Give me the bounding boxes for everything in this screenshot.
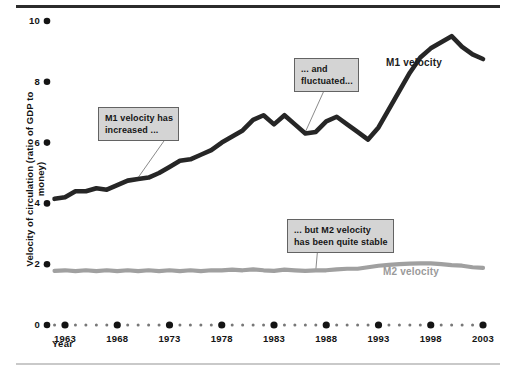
x-tick-dot-major xyxy=(427,321,434,328)
y-tick-label: 6 xyxy=(18,137,40,148)
x-tick-dot-major xyxy=(323,321,330,328)
x-tick-dot-major xyxy=(114,321,121,328)
series-label-m1: M1 velocity xyxy=(386,57,442,68)
y-axis-title: Velocity of circulation (ratio of GDP to… xyxy=(24,74,46,284)
x-tick-label: 1998 xyxy=(411,333,451,344)
x-tick-dot-minor xyxy=(178,324,181,327)
annotation-m1-increased: M1 velocity has increased ... xyxy=(98,107,179,141)
series-label-m2: M2 velocity xyxy=(383,266,439,277)
x-tick-dot-minor xyxy=(74,324,77,327)
x-tick-dot-minor xyxy=(105,324,108,327)
x-tick-dot-minor xyxy=(450,324,453,327)
x-tick-dot-minor xyxy=(147,324,150,327)
x-tick-dot-minor xyxy=(346,324,349,327)
x-axis-tick-dots xyxy=(53,321,487,328)
x-tick-dot-major xyxy=(166,321,173,328)
x-tick-dot-minor xyxy=(199,324,202,327)
y-tick-dot xyxy=(44,18,51,25)
x-tick-dot-minor xyxy=(440,324,443,327)
x-tick-dot-major xyxy=(479,321,486,328)
annotation-m2-stable: ... but M2 velocity has been quite stabl… xyxy=(287,219,394,253)
x-tick-dot-minor xyxy=(304,324,307,327)
x-tick-label: 1973 xyxy=(150,333,190,344)
y-tick-label: 2 xyxy=(18,258,40,269)
x-tick-dot-major xyxy=(218,321,225,328)
x-tick-dot-minor xyxy=(231,324,234,327)
chart-figure: Velocity of circulation (ratio of GDP to… xyxy=(0,0,511,373)
x-tick-dot-major xyxy=(375,321,382,328)
x-tick-dot-minor xyxy=(53,324,56,327)
x-tick-label: 1993 xyxy=(359,333,399,344)
x-tick-dot-minor xyxy=(252,324,255,327)
x-tick-label: 2003 xyxy=(463,333,503,344)
y-tick-label: 10 xyxy=(18,15,40,26)
y-tick-label: 4 xyxy=(18,197,40,208)
x-tick-dot-minor xyxy=(408,324,411,327)
x-tick-dot-minor xyxy=(95,324,98,327)
x-tick-dot-minor xyxy=(293,324,296,327)
x-tick-dot-minor xyxy=(314,324,317,327)
y-tick-label: 0 xyxy=(18,319,40,330)
x-tick-dot-major xyxy=(270,321,277,328)
x-tick-dot-minor xyxy=(387,324,390,327)
x-tick-dot-minor xyxy=(283,324,286,327)
x-tick-label: 1968 xyxy=(97,333,137,344)
x-tick-dot-minor xyxy=(126,324,129,327)
x-tick-dot-minor xyxy=(137,324,140,327)
x-tick-dot-minor xyxy=(241,324,244,327)
y-tick-dot xyxy=(44,322,51,329)
x-tick-dot-minor xyxy=(335,324,338,327)
x-tick-dot-minor xyxy=(398,324,401,327)
annotation-m1-fluctuated: ... and fluctuated... xyxy=(294,58,359,92)
x-tick-dot-minor xyxy=(471,324,474,327)
chart-plot-area xyxy=(0,0,511,373)
x-tick-dot-major xyxy=(61,321,68,328)
x-tick-dot-minor xyxy=(367,324,370,327)
x-tick-dot-minor xyxy=(158,324,161,327)
x-tick-label: 1963 xyxy=(45,333,85,344)
y-tick-label: 8 xyxy=(18,76,40,87)
x-tick-dot-minor xyxy=(461,324,464,327)
x-tick-dot-minor xyxy=(262,324,265,327)
x-tick-dot-minor xyxy=(419,324,422,327)
x-tick-label: 1988 xyxy=(306,333,346,344)
x-tick-label: 1978 xyxy=(202,333,242,344)
x-tick-dot-minor xyxy=(356,324,359,327)
x-tick-label: 1983 xyxy=(254,333,294,344)
x-tick-dot-minor xyxy=(189,324,192,327)
x-tick-dot-minor xyxy=(210,324,213,327)
x-tick-dot-minor xyxy=(84,324,87,327)
